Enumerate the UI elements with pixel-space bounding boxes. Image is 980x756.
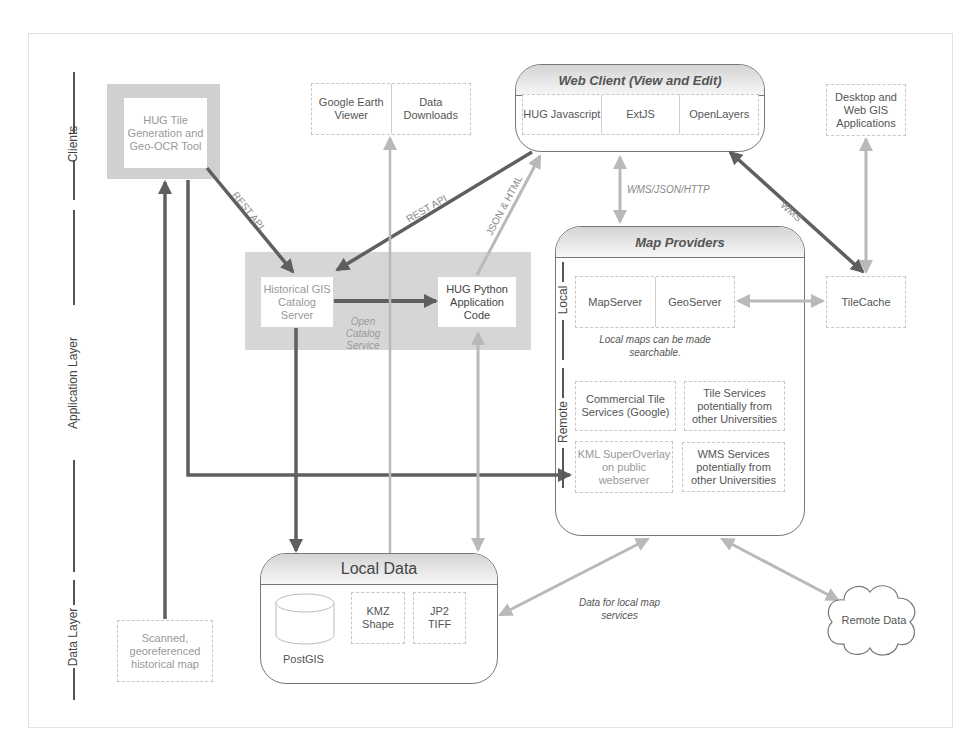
postgis-label: PostGIS (283, 653, 324, 665)
layer-label-clients: Clients (66, 96, 80, 192)
tile-services-label: Tile Services potentially from other Uni… (685, 387, 784, 426)
hug-javascript[interactable]: HUG Javascript (523, 95, 601, 134)
catalog-server[interactable]: Historical GIS Catalog Server (261, 277, 333, 327)
data-downloads[interactable]: Data Downloads (391, 84, 471, 134)
desktop-gis-apps[interactable]: Desktop and Web GIS Applications (826, 84, 906, 136)
local-data-title: Local Data (261, 554, 497, 585)
remote-label: Remote (556, 387, 570, 457)
jp2-tiff-label: JP2 TIFF (425, 605, 455, 631)
local-label: Local (556, 275, 570, 325)
hug-python-code-label: HUG Python Application Code (438, 283, 516, 322)
data-note: Data for local map services (572, 596, 667, 622)
wms-services-universities[interactable]: WMS Services potentially from other Univ… (682, 442, 785, 492)
google-earth-viewer[interactable]: Google Earth Viewer (312, 84, 391, 134)
geoserver[interactable]: GeoServer (655, 277, 735, 327)
local-note: Local maps can be made searchable. (590, 333, 720, 359)
web-client-title: Web Client (View and Edit) (516, 65, 764, 96)
hug-tile-tool-box[interactable]: HUG Tile Generation and Geo-OCR Tool (124, 98, 207, 168)
tile-services-universities[interactable]: Tile Services potentially from other Uni… (684, 381, 785, 431)
commercial-tile-services[interactable]: Commercial Tile Services (Google) (575, 381, 676, 431)
kml-superoverlay-label: KML SuperOverlay on public webserver (576, 448, 672, 487)
web-client-components: HUG Javascript ExtJS OpenLayers (522, 94, 759, 135)
layer-label-data: Data Layer (66, 589, 80, 685)
catalog-server-label: Historical GIS Catalog Server (261, 283, 333, 322)
layer-divider (73, 210, 75, 305)
desktop-gis-label: Desktop and Web GIS Applications (827, 91, 905, 130)
mapserver[interactable]: MapServer (576, 277, 655, 327)
tilecache[interactable]: TileCache (826, 276, 906, 328)
scanned-historical-map[interactable]: Scanned, georeferenced historical map (117, 620, 213, 682)
hug-tile-tool-label: HUG Tile Generation and Geo-OCR Tool (124, 114, 207, 153)
open-catalog-service-label: Open Catalog Service (338, 316, 388, 352)
layer-label-application: Application Layer (66, 325, 80, 441)
local-map-servers: MapServer GeoServer (575, 276, 735, 328)
kmz-shape-label: KMZ Shape (360, 605, 396, 631)
remote-data-label: Remote Data (834, 614, 914, 626)
local-divider (562, 320, 564, 360)
edge-label-wms-json-http: WMS/JSON/HTTP (627, 184, 710, 195)
viewer-downloads-group: Google Earth Viewer Data Downloads (311, 83, 471, 135)
database-icon (273, 591, 337, 651)
jp2-tiff[interactable]: JP2 TIFF (413, 592, 466, 644)
scanned-map-label: Scanned, georeferenced historical map (118, 632, 212, 671)
openlayers[interactable]: OpenLayers (679, 95, 758, 134)
layer-divider (73, 460, 75, 572)
wms-services-label: WMS Services potentially from other Univ… (683, 448, 784, 487)
kml-superoverlay[interactable]: KML SuperOverlay on public webserver (575, 441, 673, 493)
map-providers-title: Map Providers (556, 227, 804, 258)
hug-python-code[interactable]: HUG Python Application Code (438, 277, 516, 327)
extjs[interactable]: ExtJS (601, 95, 680, 134)
tilecache-label: TileCache (841, 296, 890, 309)
commercial-tile-label: Commercial Tile Services (Google) (576, 393, 675, 419)
kmz-shape[interactable]: KMZ Shape (351, 592, 405, 644)
